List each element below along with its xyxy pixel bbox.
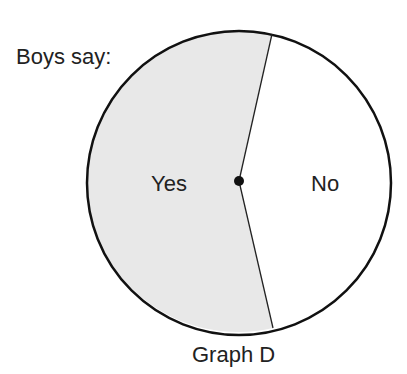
slice-label-no: No	[311, 171, 339, 197]
slice-label-yes: Yes	[151, 171, 187, 197]
center-dot	[234, 176, 244, 186]
chart-caption: Graph D	[192, 342, 275, 368]
chart-title: Boys say:	[16, 44, 111, 70]
